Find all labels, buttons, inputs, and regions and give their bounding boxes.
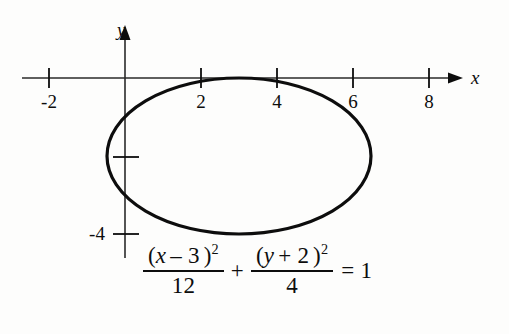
fraction-1-numerator: (x– 3)2 — [143, 243, 224, 270]
x-tick-label-6: 6 — [342, 92, 364, 111]
term2-operator: + 2 — [274, 243, 313, 268]
x-tick-label-4: 4 — [266, 92, 288, 111]
equation-fraction-2: (y+ 2)2 4 — [251, 243, 333, 299]
equation-right-hand-side: = 1 — [336, 258, 372, 284]
x-axis-label: x — [471, 68, 479, 87]
fraction-2-numerator: (y+ 2)2 — [251, 243, 333, 270]
ellipse-curve — [107, 78, 371, 234]
paren-close-2: ) — [313, 243, 321, 268]
x-tick-label--2: -2 — [35, 92, 63, 111]
x-tick-label-2: 2 — [190, 92, 212, 111]
y-tick-label--4: -4 — [83, 224, 111, 243]
equation-plus-sign: + — [227, 258, 248, 284]
fraction-2-denominator: 4 — [281, 272, 303, 299]
ellipse-equation: (x– 3)2 12 + (y+ 2)2 4 = 1 — [140, 243, 372, 299]
variable-x: x — [156, 243, 166, 268]
fraction-1-denominator: 12 — [167, 272, 200, 299]
variable-y: y — [264, 243, 274, 268]
exponent-1: 2 — [212, 241, 219, 257]
equation-fraction-1: (x– 3)2 12 — [143, 243, 224, 299]
x-tick-label-8: 8 — [418, 92, 440, 111]
paren-open-1: ( — [148, 243, 156, 268]
paren-open-2: ( — [256, 243, 264, 268]
paren-close-1: ) — [204, 243, 212, 268]
figure-canvas: y x -2 2 4 6 8 -4 (x– 3)2 12 + (y+ 2)2 4… — [0, 0, 509, 334]
exponent-2: 2 — [321, 241, 328, 257]
y-axis-label: y — [117, 20, 125, 39]
term1-operator: – 3 — [166, 243, 203, 268]
x-axis-arrowhead — [448, 73, 463, 84]
